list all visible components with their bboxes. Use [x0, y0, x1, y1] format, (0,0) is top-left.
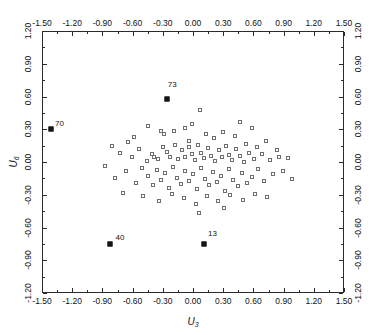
y-axis-title: U6 — [8, 156, 20, 167]
data-point — [233, 134, 237, 138]
data-point — [157, 199, 161, 203]
data-point — [252, 157, 256, 161]
y-axis-tick — [339, 195, 343, 196]
x-axis-tick — [284, 288, 285, 292]
data-point — [199, 166, 203, 170]
x-axis-tick — [193, 32, 194, 36]
y-axis-minor-tick — [43, 80, 45, 81]
y-axis-tick — [43, 31, 47, 32]
data-point — [182, 196, 186, 200]
data-point — [205, 194, 209, 198]
data-point — [241, 198, 245, 202]
x-axis-tick — [72, 32, 73, 36]
y-axis-tick-label: 1.20 — [24, 23, 33, 40]
data-point — [227, 167, 231, 171]
data-point — [130, 155, 134, 159]
x-axis-tick — [223, 288, 224, 292]
x-axis-tick-label: -0.60 — [123, 297, 142, 306]
data-point — [207, 183, 211, 187]
data-point — [231, 178, 235, 182]
data-point — [250, 175, 254, 179]
y-axis-tick — [339, 293, 343, 294]
x-axis-tick — [133, 32, 134, 36]
data-point — [271, 172, 275, 176]
data-point — [137, 147, 141, 151]
data-point — [121, 191, 125, 195]
data-point — [151, 183, 155, 187]
x-axis-minor-tick — [329, 32, 330, 34]
data-point — [145, 159, 149, 163]
y-axis-tick-label: 1.20 — [354, 23, 363, 40]
x-axis-tick — [133, 288, 134, 292]
data-point — [193, 158, 197, 162]
data-point — [268, 158, 272, 162]
data-point — [141, 194, 145, 198]
data-point — [162, 132, 166, 136]
x-axis-tick — [42, 288, 43, 292]
data-point — [140, 166, 144, 170]
y-axis-minor-tick — [341, 80, 343, 81]
x-axis-tick — [253, 32, 254, 36]
data-point — [163, 171, 167, 175]
data-point — [238, 154, 242, 158]
x-axis-tick — [314, 32, 315, 36]
y-axis-tick-label: 0.90 — [354, 55, 363, 72]
y-axis-tick-label: 0.60 — [24, 88, 33, 105]
data-point — [110, 144, 114, 148]
y-axis-tick-label: 0.60 — [354, 88, 363, 105]
x-axis-tick-label: 1.20 — [306, 297, 323, 306]
x-axis-minor-tick — [118, 290, 119, 292]
data-point — [219, 174, 223, 178]
x-axis-minor-tick — [208, 290, 209, 292]
y-axis-tick-label: -0.60 — [24, 218, 33, 237]
x-axis-tick-label: 0.60 — [245, 19, 262, 28]
x-axis-tick-label: 0.30 — [215, 19, 232, 28]
data-point — [223, 189, 227, 193]
data-point — [191, 172, 195, 176]
x-axis-tick — [344, 288, 345, 292]
data-point — [224, 144, 228, 148]
y-axis-tick — [339, 64, 343, 65]
data-point — [172, 129, 176, 133]
y-axis-tick — [339, 260, 343, 261]
data-point — [156, 157, 160, 161]
data-point — [190, 122, 194, 126]
x-axis-tick-label: 0.00 — [185, 297, 202, 306]
x-axis-minor-tick — [57, 290, 58, 292]
data-point — [238, 120, 242, 124]
data-point — [183, 155, 187, 159]
x-axis-tick-label: 1.50 — [336, 19, 353, 28]
y-axis-tick — [339, 97, 343, 98]
x-axis-tick — [163, 288, 164, 292]
data-point — [277, 155, 281, 159]
y-axis-minor-tick — [341, 244, 343, 245]
x-axis-minor-tick — [87, 290, 88, 292]
x-axis-tick — [193, 288, 194, 292]
data-point — [124, 169, 128, 173]
highlighted-data-point — [202, 242, 207, 247]
data-point — [213, 159, 217, 163]
data-point — [220, 155, 224, 159]
y-axis-minor-tick — [341, 178, 343, 179]
x-axis-minor-tick — [148, 32, 149, 34]
plot-frame — [42, 31, 344, 293]
data-point — [170, 192, 174, 196]
x-axis-minor-tick — [269, 290, 270, 292]
y-axis-tick — [43, 162, 47, 163]
data-point — [146, 174, 150, 178]
x-axis-tick — [102, 288, 103, 292]
y-axis-minor-tick — [43, 277, 45, 278]
data-point — [265, 195, 269, 199]
data-point — [126, 140, 130, 144]
x-axis-tick-label: 0.60 — [245, 297, 262, 306]
data-point — [134, 181, 138, 185]
x-axis-tick-label: 0.90 — [275, 19, 292, 28]
x-axis-tick — [163, 32, 164, 36]
x-axis-tick — [223, 32, 224, 36]
x-axis-minor-tick — [87, 32, 88, 34]
y-axis-tick-label: 0.90 — [24, 55, 33, 72]
x-axis-tick-label: -0.60 — [123, 19, 142, 28]
data-point — [290, 177, 294, 181]
x-axis-tick-label: 0.90 — [275, 297, 292, 306]
x-axis-minor-tick — [238, 32, 239, 34]
